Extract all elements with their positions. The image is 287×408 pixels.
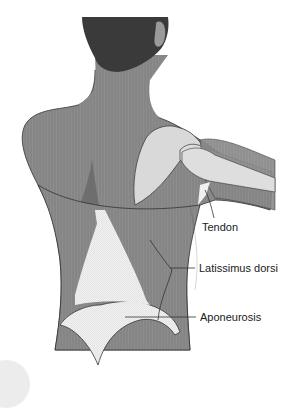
aponeurosis-label: Aponeurosis [200, 312, 261, 323]
latissimus-dorsi-label: Latissimus dorsi [199, 263, 278, 274]
tendon-label: Tendon [202, 222, 238, 233]
